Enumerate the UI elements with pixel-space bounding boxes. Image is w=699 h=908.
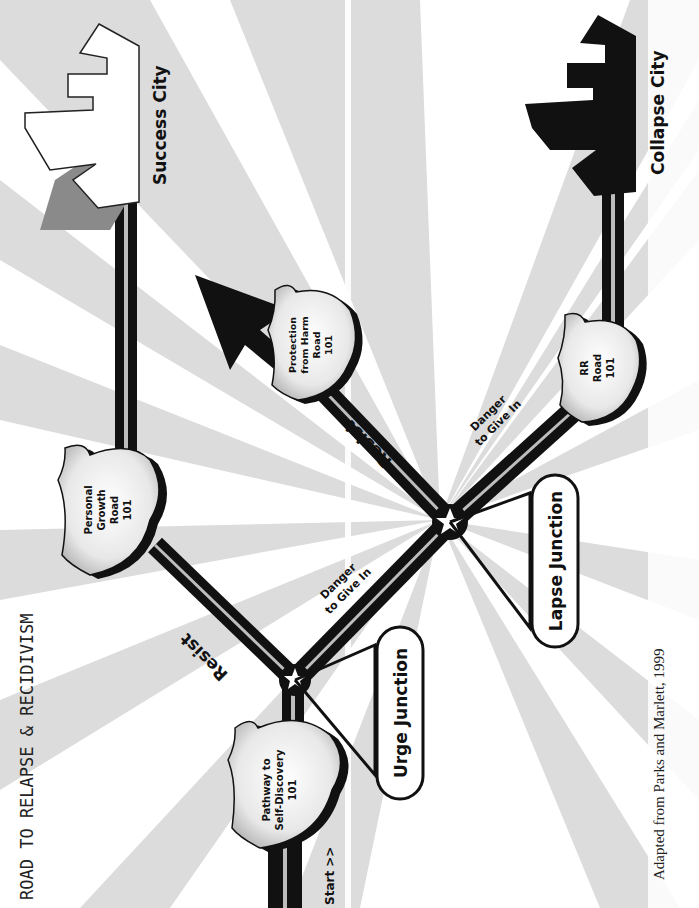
svg-text:Self-Discovery: Self-Discovery bbox=[274, 749, 285, 830]
svg-text:101: 101 bbox=[605, 358, 616, 379]
svg-text:RR: RR bbox=[579, 360, 590, 376]
svg-text:Pathway to: Pathway to bbox=[261, 758, 272, 821]
urge-junction-label: Urge Junction bbox=[391, 648, 411, 778]
svg-text:Road: Road bbox=[592, 354, 603, 382]
svg-text:Protection: Protection bbox=[287, 317, 298, 373]
collapse-city-label: Collapse City bbox=[648, 50, 668, 175]
success-city-label: Success City bbox=[150, 65, 170, 185]
svg-text:Personal: Personal bbox=[83, 485, 94, 534]
svg-text:101: 101 bbox=[287, 780, 298, 801]
relapse-road-diagram: Success City Collapse City Pathway to Se… bbox=[0, 0, 699, 908]
citation: Adapted from Parks and Marlett, 1999 bbox=[651, 648, 667, 880]
svg-text:from Harm: from Harm bbox=[299, 316, 310, 374]
svg-text:Growth: Growth bbox=[96, 489, 107, 530]
svg-text:101: 101 bbox=[323, 335, 334, 355]
svg-text:Road: Road bbox=[109, 496, 120, 524]
lapse-junction-label: Lapse Junction bbox=[546, 491, 566, 631]
start-label: Start >> bbox=[323, 847, 337, 905]
svg-text:101: 101 bbox=[122, 500, 133, 521]
diagram-title: ROAD TO RELAPSE & RECIDIVISM bbox=[17, 613, 37, 900]
svg-text:Road: Road bbox=[311, 331, 322, 358]
